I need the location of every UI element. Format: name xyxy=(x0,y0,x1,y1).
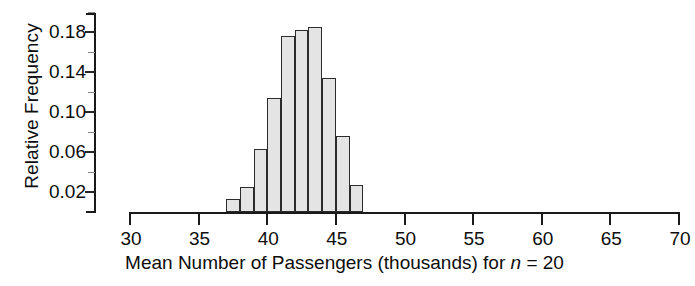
x-tick-label: 45 xyxy=(307,228,367,250)
x-tick-label: 30 xyxy=(101,228,161,250)
x-tick xyxy=(609,212,611,225)
histogram-bar xyxy=(336,136,350,212)
histogram-bar xyxy=(295,30,309,212)
histogram-bar xyxy=(226,199,240,212)
x-axis-title-before: Mean Number of Passengers (thousands) fo… xyxy=(125,252,510,273)
y-tick-minor xyxy=(88,132,95,133)
x-tick-label: 65 xyxy=(581,228,641,250)
y-tick-minor xyxy=(88,12,95,13)
y-tick-major xyxy=(85,151,95,153)
x-tick xyxy=(266,212,268,225)
histogram-bar xyxy=(308,27,322,212)
x-axis-title-italic-n: n xyxy=(511,252,522,273)
y-tick-label: 0.14 xyxy=(26,62,86,81)
histogram-bar xyxy=(281,36,295,212)
histogram-bar xyxy=(240,187,254,212)
histogram-bar xyxy=(350,185,364,212)
x-tick xyxy=(678,212,680,225)
x-tick-label: 55 xyxy=(444,228,504,250)
x-tick-label: 40 xyxy=(238,228,298,250)
x-tick xyxy=(129,212,131,225)
y-tick-major xyxy=(85,111,95,113)
x-tick xyxy=(541,212,543,225)
y-tick-minor xyxy=(88,52,95,53)
histogram-bar xyxy=(254,149,268,212)
y-tick-minor xyxy=(88,92,95,93)
y-tick-major xyxy=(85,71,95,73)
histogram-bar xyxy=(267,98,281,212)
x-tick xyxy=(404,212,406,225)
x-tick-label: 70 xyxy=(650,228,695,250)
x-tick-label: 35 xyxy=(170,228,230,250)
x-tick-label: 60 xyxy=(513,228,573,250)
x-tick xyxy=(472,212,474,225)
y-tick-major xyxy=(85,191,95,193)
y-axis-top-cap xyxy=(86,13,96,15)
y-tick-major xyxy=(85,31,95,33)
x-tick xyxy=(335,212,337,225)
x-tick xyxy=(198,212,200,225)
y-tick-label: 0.18 xyxy=(26,22,86,41)
y-axis-bottom-cap xyxy=(86,211,96,213)
x-tick-label: 50 xyxy=(376,228,436,250)
y-axis-spine xyxy=(94,13,96,213)
histogram-bar xyxy=(322,78,336,212)
y-axis-tick-labels: 0.020.060.100.140.18 xyxy=(26,0,86,286)
x-axis-title-after: = 20 xyxy=(521,252,564,273)
y-tick-minor xyxy=(88,172,95,173)
y-tick-label: 0.10 xyxy=(26,102,86,121)
y-tick-label: 0.06 xyxy=(26,142,86,161)
x-axis-title: Mean Number of Passengers (thousands) fo… xyxy=(0,252,689,274)
y-tick-label: 0.02 xyxy=(26,182,86,201)
